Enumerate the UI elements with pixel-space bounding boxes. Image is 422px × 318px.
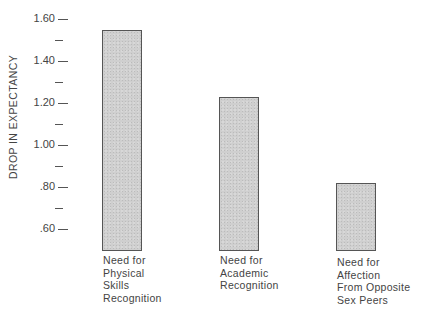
category-label-line: Need for [337, 256, 410, 269]
y-tick [55, 208, 63, 209]
y-tick-label: 1.40 [21, 54, 55, 66]
y-tick [55, 82, 63, 83]
y-axis-label: DROP IN EXPECTANCY [7, 55, 19, 179]
category-label-line: Need for [220, 254, 279, 267]
y-tick [55, 124, 63, 125]
category-label-line: Affection [337, 269, 410, 282]
category-label-line: From Opposite [337, 281, 410, 294]
bar [219, 97, 259, 251]
y-tick-label: 1.20 [21, 96, 55, 108]
category-label-line: Need for [103, 254, 162, 267]
category-label-line: Academic [220, 267, 279, 280]
category-label-line: Sex Peers [337, 294, 410, 307]
category-label: Need forAcademicRecognition [220, 254, 279, 292]
category-label: Need forPhysicalSkillsRecognition [103, 254, 162, 304]
category-label: Need forAffectionFrom OppositeSex Peers [337, 256, 410, 306]
category-label-line: Recognition [220, 279, 279, 292]
y-tick [58, 145, 68, 146]
y-tick [58, 187, 68, 188]
y-tick [58, 103, 68, 104]
y-tick-label: .80 [21, 180, 55, 192]
y-tick [58, 229, 68, 230]
y-tick [55, 40, 63, 41]
category-label-line: Skills [103, 279, 162, 292]
y-tick [58, 19, 68, 20]
y-tick [58, 61, 68, 62]
bar [336, 183, 376, 251]
y-tick [55, 166, 63, 167]
y-tick-label: .60 [21, 222, 55, 234]
y-tick-label: 1.00 [21, 138, 55, 150]
category-label-line: Physical [103, 267, 162, 280]
bar [102, 30, 142, 252]
y-tick-label: 1.60 [21, 12, 55, 24]
category-label-line: Recognition [103, 292, 162, 305]
